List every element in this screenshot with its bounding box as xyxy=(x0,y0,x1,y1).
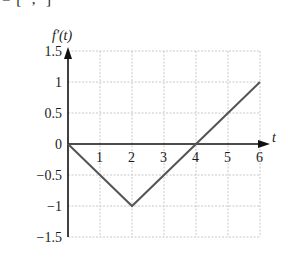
x-tick-label: 2 xyxy=(128,150,135,165)
x-tick-label: 6 xyxy=(256,150,263,165)
x-axis-label: t xyxy=(272,130,277,145)
y-axis-arrow-icon xyxy=(64,47,72,59)
y-tick-label: 1 xyxy=(55,75,62,90)
x-tick-label: 3 xyxy=(160,150,167,165)
x-tick-label: 4 xyxy=(192,150,199,165)
y-axis-label: f′(t) xyxy=(52,28,73,44)
x-tick-label: 5 xyxy=(224,150,231,165)
y-tick-labels: 1.5 1 0.5 0 −0.5 −1 −1.5 xyxy=(37,44,62,245)
y-tick-label: −1 xyxy=(47,199,62,214)
x-tick-label: 1 xyxy=(96,150,103,165)
y-tick-label: 1.5 xyxy=(45,44,63,59)
x-tick-labels: 1 2 3 4 5 6 xyxy=(96,150,263,165)
y-tick-label: −1.5 xyxy=(37,230,62,245)
y-tick-label: −0.5 xyxy=(37,168,62,183)
y-tick-label: 0 xyxy=(55,137,62,152)
x-axis-arrow-icon xyxy=(258,140,270,148)
chart: f′(t) t 1 2 3 4 5 6 1.5 1 0.5 0 −0.5 −1 … xyxy=(0,0,284,265)
y-tick-label: 0.5 xyxy=(45,106,63,121)
